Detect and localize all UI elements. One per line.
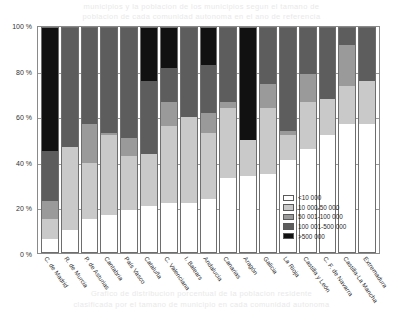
x-label-slot: I. Balears [180, 255, 198, 313]
bar-segment[interactable] [81, 219, 99, 253]
bar-segment[interactable] [200, 113, 218, 133]
y-axis-tick-labels: 0 %20 %40 %60 %80 %100 % [0, 26, 34, 254]
bar-segment[interactable] [319, 99, 337, 135]
x-label-slot: Castilla-La Mancha [339, 255, 357, 313]
bar-segment[interactable] [140, 154, 158, 206]
x-axis-tick-label: Aragón [243, 255, 261, 276]
bar-segment[interactable] [160, 203, 178, 253]
bar-segment[interactable] [61, 230, 79, 253]
bar-galicia[interactable] [259, 27, 277, 253]
bar-segment[interactable] [81, 124, 99, 162]
legend-item[interactable]: 100 001-500 000 [283, 222, 375, 232]
x-label-slot: C. F. de Navarra [319, 255, 337, 313]
bar-segment[interactable] [200, 133, 218, 199]
bar-p-de-asturias[interactable] [81, 27, 99, 253]
bar-segment[interactable] [358, 81, 376, 124]
bar-segment[interactable] [259, 108, 277, 174]
bar-segment[interactable] [160, 126, 178, 203]
bar-segment[interactable] [61, 27, 79, 147]
bar-segment[interactable] [41, 201, 59, 219]
bar-segment[interactable] [219, 178, 237, 253]
bar-segment[interactable] [239, 27, 257, 140]
x-label-slot: Cataluña [140, 255, 158, 313]
bar-c-valenciana[interactable] [160, 27, 178, 253]
x-label-slot: Canarias [219, 255, 237, 313]
bar-segment[interactable] [358, 27, 376, 81]
bar-segment[interactable] [41, 27, 59, 151]
bar-segment[interactable] [219, 108, 237, 178]
bar-segment[interactable] [100, 215, 118, 253]
bar-segment[interactable] [200, 65, 218, 112]
bar-segment[interactable] [299, 74, 317, 101]
bar-segment[interactable] [120, 156, 138, 210]
bar-segment[interactable] [338, 86, 356, 124]
bar-segment[interactable] [338, 45, 356, 86]
legend-item[interactable]: <10 000 [283, 193, 375, 203]
x-label-slot: Andalucía [200, 255, 218, 313]
bar-segment[interactable] [160, 27, 178, 68]
bar-segment[interactable] [200, 199, 218, 253]
bar-arag-n[interactable] [239, 27, 257, 253]
bar-segment[interactable] [41, 151, 59, 201]
bar-segment[interactable] [81, 163, 99, 220]
legend-swatch [283, 233, 294, 240]
bar-segment[interactable] [41, 239, 59, 253]
legend-label: 50 001-100 000 [298, 213, 343, 220]
x-label-slot: Galicia [259, 255, 277, 313]
x-label-slot: País Vasco [120, 255, 138, 313]
bar-segment[interactable] [180, 203, 198, 253]
bar-segment[interactable] [140, 27, 158, 81]
bar-segment[interactable] [180, 27, 198, 117]
bar-segment[interactable] [160, 68, 178, 102]
bar-segment[interactable] [259, 84, 277, 109]
bar-canarias[interactable] [219, 27, 237, 253]
y-axis-tick-label: 60 % [16, 114, 32, 121]
bar-segment[interactable] [120, 27, 138, 138]
bar-segment[interactable] [160, 102, 178, 127]
bar-r-de-murcia[interactable] [61, 27, 79, 253]
y-axis-tick-label: 80 % [16, 68, 32, 75]
legend-item[interactable]: 10 000-50 000 [283, 203, 375, 213]
bar-segment[interactable] [299, 102, 317, 149]
bar-catalu-a[interactable] [140, 27, 158, 253]
bar-segment[interactable] [200, 27, 218, 65]
bar-segment[interactable] [61, 147, 79, 231]
bar-segment[interactable] [338, 27, 356, 45]
bar-segment[interactable] [259, 27, 277, 84]
bar-segment[interactable] [100, 135, 118, 214]
bar-segment[interactable] [219, 27, 237, 102]
x-axis-category-labels: C. de MadridR. de MurciaP. de AsturiasCa… [37, 255, 380, 313]
y-axis-tick-label: 40 % [16, 159, 32, 166]
bar-segment[interactable] [239, 176, 257, 253]
bar-segment[interactable] [120, 138, 138, 156]
x-label-slot: Extremadura [359, 255, 377, 313]
bar-segment[interactable] [319, 27, 337, 99]
y-axis-tick-label: 20 % [16, 205, 32, 212]
bar-andaluc-a[interactable] [200, 27, 218, 253]
bar-i-balears[interactable] [180, 27, 198, 253]
bar-segment[interactable] [279, 135, 297, 160]
bar-segment[interactable] [81, 27, 99, 124]
x-label-slot: C. Valenciana [160, 255, 178, 313]
bar-segment[interactable] [41, 219, 59, 239]
y-axis-tick-label: 100 % [12, 23, 32, 30]
bar-segment[interactable] [120, 210, 138, 253]
bar-segment[interactable] [279, 27, 297, 131]
bar-segment[interactable] [239, 140, 257, 176]
legend-item[interactable]: 50 001-100 000 [283, 212, 375, 222]
bar-pa-s-vasco[interactable] [120, 27, 138, 253]
x-label-slot: R. de Murcia [60, 255, 78, 313]
bar-cantabria[interactable] [100, 27, 118, 253]
legend-label: >500 000 [298, 233, 325, 240]
x-label-slot: C. de Madrid [40, 255, 58, 313]
legend-item[interactable]: >500 000 [283, 231, 375, 241]
bar-segment[interactable] [259, 174, 277, 253]
bar-segment[interactable] [140, 81, 158, 153]
bar-segment[interactable] [100, 27, 118, 133]
bar-segment[interactable] [299, 27, 317, 74]
bar-c-de-madrid[interactable] [41, 27, 59, 253]
bar-segment[interactable] [180, 117, 198, 203]
bar-segment[interactable] [219, 102, 237, 109]
legend: <10 00010 000-50 00050 001-100 000100 00… [283, 193, 375, 241]
bar-segment[interactable] [140, 206, 158, 253]
